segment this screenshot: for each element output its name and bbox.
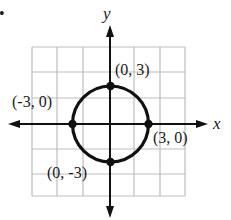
x-axis: x [8,114,221,133]
label-point-bottom: (0, -3) [47,164,87,182]
y-axis-label: y [101,4,111,23]
y-axis: y [101,4,114,218]
point-bottom [106,158,114,166]
arrow-left-icon [8,120,20,128]
arrow-down-icon [106,206,114,218]
label-point-right: (3, 0) [153,129,188,147]
point-right [144,120,152,128]
circle-graph: • x y (0, 3) (-3, 0) (3, [0,0,231,220]
x-axis-label: x [212,114,221,133]
point-left [68,120,76,128]
arrow-right-icon [196,120,208,128]
point-top [106,82,114,90]
arrow-up-icon [106,25,114,37]
label-point-top: (0, 3) [115,61,150,79]
list-bullet: • [0,5,5,22]
label-point-left: (-3, 0) [12,93,52,111]
